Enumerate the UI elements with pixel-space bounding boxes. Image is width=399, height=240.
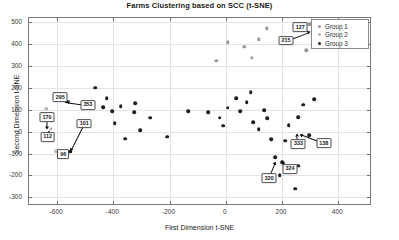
x-axis-tick — [282, 201, 283, 204]
point-label-333: 333 — [291, 139, 306, 149]
y-axis-tick — [29, 110, 32, 111]
data-point — [134, 101, 138, 105]
x-axis-tick — [170, 18, 171, 21]
y-axis-tick — [367, 110, 370, 111]
x-axis-tick — [282, 18, 283, 21]
data-point — [287, 123, 291, 127]
scatter-chart-figure: Farms Clustering based on SCC (t-SNE) Fi… — [0, 0, 399, 240]
data-point — [283, 139, 287, 143]
data-point — [297, 115, 301, 119]
y-axis-tick — [367, 175, 370, 176]
y-axis-tick-label: -300 — [0, 193, 22, 200]
y-axis-tick — [367, 132, 370, 133]
data-point — [249, 91, 253, 95]
data-point — [123, 137, 127, 141]
point-label-215: 215 — [279, 36, 294, 46]
data-point — [186, 109, 190, 113]
legend-item-group-3: Group 3 — [315, 39, 365, 48]
y-axis-tick — [29, 22, 32, 23]
point-label-101: 101 — [77, 119, 92, 129]
point-label-127: 127 — [293, 23, 308, 33]
data-point — [94, 86, 98, 90]
y-axis-tick — [29, 132, 32, 133]
data-point — [234, 97, 238, 101]
gridline-horizontal — [29, 110, 370, 111]
gridline-horizontal — [29, 197, 370, 198]
x-axis-tick — [338, 201, 339, 204]
x-axis-tick-label: -400 — [106, 208, 119, 215]
y-axis-tick-label: -100 — [0, 149, 22, 156]
data-point — [293, 187, 297, 191]
data-point — [274, 155, 278, 159]
data-point — [312, 97, 316, 101]
legend-item-group-2: Group 2 — [315, 31, 365, 40]
y-axis-tick-label: 200 — [0, 83, 22, 90]
y-axis-tick — [29, 175, 32, 176]
gridline-horizontal — [29, 154, 370, 155]
legend-label-group-3: Group 3 — [325, 40, 348, 47]
point-label-112: 112 — [40, 132, 55, 142]
x-axis-tick — [226, 18, 227, 21]
point-label-324: 324 — [283, 164, 298, 174]
x-axis-tick-label: 400 — [332, 208, 343, 215]
point-label-170: 170 — [40, 112, 55, 122]
data-point — [301, 103, 305, 107]
data-point — [149, 116, 153, 120]
data-point — [218, 116, 222, 120]
y-axis-tick — [29, 66, 32, 67]
x-axis-tick — [170, 201, 171, 204]
y-axis-tick-label: 500 — [0, 18, 22, 25]
x-axis-tick — [226, 201, 227, 204]
data-point — [113, 121, 117, 125]
legend-swatch-group-1 — [318, 25, 321, 28]
legend-item-group-1: Group 1 — [315, 22, 365, 31]
y-axis-tick — [367, 197, 370, 198]
x-axis-tick — [113, 201, 114, 204]
data-point — [257, 127, 261, 131]
point-label-320: 320 — [262, 173, 277, 183]
y-axis-tick — [29, 197, 32, 198]
data-point — [206, 110, 210, 114]
point-label-138: 138 — [316, 138, 331, 148]
chart-title: Farms Clustering based on SCC (t-SNE) — [0, 1, 399, 10]
y-axis-tick — [367, 88, 370, 89]
data-point — [269, 137, 273, 141]
gridline-horizontal — [29, 175, 370, 176]
data-point — [165, 135, 169, 139]
gridline-horizontal — [29, 88, 370, 89]
y-axis-tick — [29, 44, 32, 45]
data-point — [119, 104, 123, 108]
legend-label-group-1: Group 1 — [325, 23, 348, 30]
y-axis-tick-label: 100 — [0, 105, 22, 112]
data-point — [251, 120, 255, 124]
point-label-96: 96 — [57, 149, 69, 159]
data-point — [262, 108, 266, 112]
data-point — [139, 129, 143, 133]
x-axis-tick-label: 200 — [276, 208, 287, 215]
data-point — [111, 110, 115, 114]
data-point — [102, 105, 106, 109]
data-point — [105, 97, 109, 101]
x-axis-tick-label: 0 — [223, 208, 227, 215]
legend-label-group-2: Group 2 — [325, 31, 348, 38]
x-axis-tick-label: -600 — [50, 208, 63, 215]
data-point — [278, 174, 282, 178]
data-point — [226, 106, 230, 110]
x-axis-tick — [113, 18, 114, 21]
data-point — [238, 110, 242, 114]
point-label-353: 353 — [80, 100, 95, 110]
data-point — [245, 100, 249, 104]
y-axis-tick — [29, 154, 32, 155]
x-axis-tick — [57, 18, 58, 21]
legend-swatch-group-3 — [318, 42, 321, 45]
gridline-horizontal — [29, 66, 370, 67]
chart-legend: Group 1 Group 2 Group 3 — [311, 19, 369, 49]
y-axis-tick — [29, 88, 32, 89]
data-point — [132, 110, 136, 114]
y-axis-tick — [367, 66, 370, 67]
data-point — [265, 116, 269, 120]
y-axis-tick-label: -200 — [0, 171, 22, 178]
y-axis-tick — [367, 154, 370, 155]
legend-swatch-group-2 — [318, 33, 321, 36]
y-axis-tick-label: 400 — [0, 40, 22, 47]
